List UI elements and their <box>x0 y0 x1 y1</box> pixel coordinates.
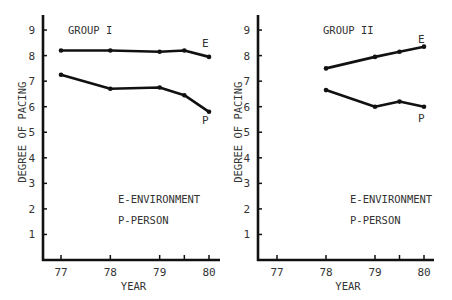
x-tick-label: 77 <box>54 266 67 279</box>
data-point <box>182 93 187 98</box>
series-label-p: P <box>202 114 209 127</box>
data-point <box>59 72 64 77</box>
data-point <box>207 55 212 60</box>
legend-person: P-PERSON <box>118 214 169 226</box>
series-line-p <box>326 90 424 107</box>
legend-environment: E-ENVIRONMENT <box>118 193 201 205</box>
data-point <box>373 55 378 60</box>
data-point <box>373 104 378 109</box>
data-point <box>182 48 187 53</box>
y-tick-label: 4 <box>243 152 250 165</box>
x-tick-label: 80 <box>417 266 430 279</box>
x-tick-label: 79 <box>153 266 166 279</box>
y-axis-label: DEGREE OF PACING <box>16 82 28 183</box>
data-point <box>59 48 64 53</box>
x-axis-label: YEAR <box>121 280 147 292</box>
y-tick-label: 5 <box>28 126 35 139</box>
y-tick-label: 3 <box>243 177 250 190</box>
pacing-charts: 12345678977787980YEARDEGREE OF PACINGGRO… <box>0 0 452 300</box>
x-tick-label: 80 <box>202 266 215 279</box>
y-tick-label: 6 <box>28 101 35 114</box>
chart-panel-1: 12345678977787980YEARDEGREE OF PACINGGRO… <box>16 15 220 292</box>
y-tick-label: 9 <box>28 24 35 37</box>
y-tick-label: 7 <box>28 75 35 88</box>
y-tick-label: 1 <box>243 228 250 241</box>
data-point <box>108 87 113 92</box>
y-tick-label: 2 <box>243 203 250 216</box>
panel-title: GROUP II <box>323 24 374 36</box>
y-tick-label: 4 <box>28 152 35 165</box>
chart-panel-2: 12345678977787980YEARDEGREE OF PACINGGRO… <box>232 15 434 292</box>
data-point <box>157 49 162 54</box>
legend-person: P-PERSON <box>350 214 401 226</box>
legend-environment: E-ENVIRONMENT <box>350 193 433 205</box>
data-point <box>397 49 402 54</box>
panel-title: GROUP I <box>68 24 112 36</box>
data-point <box>108 48 113 53</box>
data-point <box>324 88 329 93</box>
x-tick-label: 78 <box>319 266 332 279</box>
data-point <box>397 99 402 104</box>
y-tick-label: 5 <box>243 126 250 139</box>
y-axis-label: DEGREE OF PACING <box>232 82 244 183</box>
series-label-p: P <box>418 112 425 125</box>
x-tick-label: 78 <box>104 266 117 279</box>
y-tick-label: 6 <box>243 101 250 114</box>
data-point <box>157 85 162 90</box>
x-tick-label: 77 <box>270 266 283 279</box>
x-axis-label: YEAR <box>335 280 361 292</box>
y-tick-label: 3 <box>28 177 35 190</box>
y-tick-label: 9 <box>243 24 250 37</box>
y-tick-label: 2 <box>28 203 35 216</box>
x-tick-label: 79 <box>368 266 381 279</box>
y-tick-label: 7 <box>243 75 250 88</box>
series-line-p <box>61 75 209 112</box>
series-label-e: E <box>418 33 425 46</box>
y-tick-label: 8 <box>243 50 250 63</box>
data-point <box>324 66 329 71</box>
y-tick-label: 8 <box>28 50 35 63</box>
series-label-e: E <box>202 37 209 50</box>
series-line-e <box>61 50 209 56</box>
y-tick-label: 1 <box>28 228 35 241</box>
data-point <box>422 104 427 109</box>
